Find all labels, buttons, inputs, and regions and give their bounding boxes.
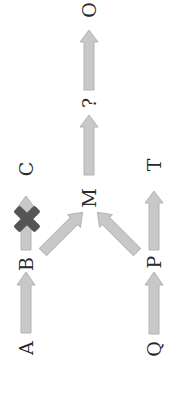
arrow-a-to-b	[17, 272, 35, 333]
arrow-q-to-p	[145, 272, 163, 334]
arrow-p-to-m	[91, 206, 143, 258]
node-q: Q	[142, 337, 166, 361]
node-p: P	[142, 250, 166, 274]
pathway-diagram: A B C M ? O Q P T	[0, 0, 180, 409]
node-unknown: ?	[77, 91, 101, 115]
node-c: C	[14, 157, 38, 181]
node-b: B	[14, 252, 38, 276]
node-o: O	[77, 0, 101, 22]
arrow-unknown-to-o	[80, 30, 98, 90]
node-t: T	[142, 153, 166, 177]
arrow-m-to-unknown	[80, 115, 98, 175]
arrow-p-to-t	[145, 191, 163, 250]
node-m: M	[77, 186, 101, 210]
arrow-b-to-m	[37, 206, 89, 258]
node-a: A	[14, 336, 38, 360]
